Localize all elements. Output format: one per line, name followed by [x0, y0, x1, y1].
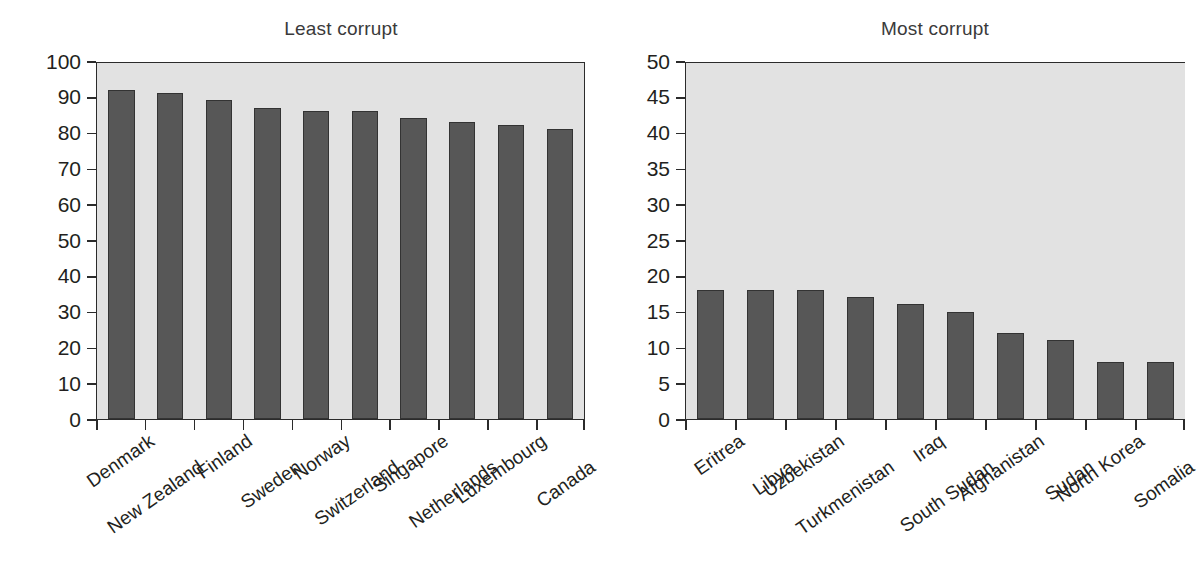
bar: [449, 122, 475, 419]
bar: [897, 304, 924, 419]
y-axis-tick-label: 0: [69, 409, 87, 430]
x-axis-tick-mark: [885, 420, 887, 430]
y-axis-least-corrupt: 1009080706050403020100: [20, 62, 96, 420]
x-axis-tick-mark: [536, 420, 538, 430]
y-axis-tick-label: 70: [58, 158, 87, 179]
bar: [303, 111, 329, 419]
bar: [797, 290, 824, 419]
y-axis-tick-label: 35: [647, 158, 676, 179]
y-axis-tick-label: 20: [647, 265, 676, 286]
y-axis-tick-mark: [676, 383, 685, 385]
x-axis-tick-mark: [685, 420, 687, 430]
x-axis-tick-mark: [145, 420, 147, 430]
bar-slot: [686, 63, 736, 419]
x-axis-category-label: Somalia: [1130, 456, 1199, 513]
x-axis-ticks-least-corrupt: [96, 420, 585, 430]
x-axis-category-label: Canada: [532, 456, 599, 512]
bar-slot: [936, 63, 986, 419]
bar-slot: [389, 63, 438, 419]
x-axis-tick-mark: [935, 420, 937, 430]
plot-area-most-corrupt: [685, 62, 1185, 420]
x-axis-tick-mark: [785, 420, 787, 430]
bar: [697, 290, 724, 419]
y-axis-tick-mark: [87, 204, 96, 206]
bar: [108, 90, 134, 419]
y-axis-tick-mark: [87, 348, 96, 350]
x-axis-tick-mark: [835, 420, 837, 430]
bar-slot: [836, 63, 886, 419]
x-axis-category-label: Finland: [193, 430, 257, 484]
y-axis-tick-label: 80: [58, 122, 87, 143]
y-axis-tick-label: 5: [658, 373, 676, 394]
bar-slot: [886, 63, 936, 419]
bar-series-most-corrupt: [686, 63, 1185, 419]
bar-slot: [535, 63, 584, 419]
x-axis-tick-mark: [583, 420, 585, 430]
bar-slot: [1035, 63, 1085, 419]
y-axis-tick-mark: [676, 240, 685, 242]
y-axis-tick-mark: [87, 383, 96, 385]
y-axis-tick-mark: [676, 419, 685, 421]
y-axis-tick-label: 50: [58, 230, 87, 251]
bar-slot: [1135, 63, 1185, 419]
y-axis-tick-label: 20: [58, 337, 87, 358]
x-axis-tick-mark: [438, 420, 440, 430]
y-axis-tick-label: 30: [647, 194, 676, 215]
bar: [254, 108, 280, 419]
chart-title-most-corrupt: Most corrupt: [685, 18, 1185, 40]
y-axis-tick-mark: [676, 97, 685, 99]
y-axis-tick-label: 90: [58, 86, 87, 107]
bar-slot: [1085, 63, 1135, 419]
y-axis-tick-label: 0: [658, 409, 676, 430]
x-axis-tick-mark: [735, 420, 737, 430]
chart-title-least-corrupt: Least corrupt: [96, 18, 586, 40]
x-axis-tick-mark: [194, 420, 196, 430]
x-axis-tick-mark: [1035, 420, 1037, 430]
x-axis-ticks-most-corrupt: [685, 420, 1185, 430]
y-axis-tick-mark: [676, 61, 685, 63]
x-axis-tick-mark: [243, 420, 245, 430]
y-axis-tick-mark: [87, 97, 96, 99]
bar-slot: [736, 63, 786, 419]
bar: [400, 118, 426, 419]
bar: [206, 100, 232, 419]
x-axis-category-label: Denmark: [83, 430, 159, 492]
bar: [547, 129, 573, 419]
chart-panel-least-corrupt: Least corrupt 1009080706050403020100 Den…: [0, 0, 600, 566]
x-axis-tick-mark: [96, 420, 98, 430]
plot-area-least-corrupt: [96, 62, 585, 420]
y-axis-tick-mark: [676, 276, 685, 278]
x-axis-tick-mark: [985, 420, 987, 430]
y-axis-tick-mark: [676, 169, 685, 171]
x-axis-tick-mark: [1183, 420, 1185, 430]
y-axis-tick-mark: [87, 312, 96, 314]
y-axis-tick-mark: [87, 133, 96, 135]
y-axis-tick-mark: [676, 348, 685, 350]
y-axis-tick-mark: [87, 240, 96, 242]
bar-slot: [341, 63, 390, 419]
x-axis-tick-mark: [341, 420, 343, 430]
x-axis-tick-mark: [1085, 420, 1087, 430]
x-axis-category-label: Iraq: [909, 430, 948, 467]
bar-slot: [985, 63, 1035, 419]
y-axis-tick-label: 40: [58, 265, 87, 286]
bar-slot: [243, 63, 292, 419]
bar-slot: [97, 63, 146, 419]
bar: [847, 297, 874, 419]
x-axis-tick-mark: [292, 420, 294, 430]
y-axis-tick-label: 45: [647, 86, 676, 107]
x-axis-labels-least-corrupt: DenmarkNew ZealandFinlandSwedenNorwaySwi…: [96, 430, 585, 560]
y-axis-tick-label: 40: [647, 122, 676, 143]
bar-slot: [487, 63, 536, 419]
y-axis-tick-mark: [87, 276, 96, 278]
y-axis-tick-label: 10: [647, 337, 676, 358]
x-axis-tick-mark: [487, 420, 489, 430]
bar-slot: [194, 63, 243, 419]
y-axis-tick-label: 30: [58, 301, 87, 322]
bar: [1097, 362, 1124, 419]
bar: [352, 111, 378, 419]
y-axis-tick-label: 50: [647, 51, 676, 72]
x-axis-tick-mark: [389, 420, 391, 430]
y-axis-tick-label: 60: [58, 194, 87, 215]
bar-slot: [786, 63, 836, 419]
